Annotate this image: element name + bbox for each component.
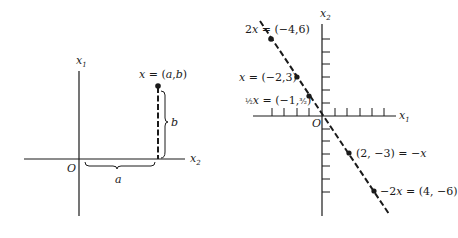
left-point — [155, 83, 161, 89]
point-2x — [268, 36, 274, 42]
label-2x: 2x = (−4,6) — [245, 23, 310, 36]
left-origin-label: O — [67, 162, 76, 175]
left-brace-b-label: b — [171, 116, 178, 129]
brace-a-icon — [85, 162, 155, 169]
left-figure: x1 x2 O x = (a,b) b a — [24, 54, 201, 216]
label-half-x: ½x = (−1,³⁄₂) — [245, 94, 311, 107]
label-x: x = (−2,3) — [239, 71, 297, 84]
left-point-label: x = (a,b) — [139, 68, 187, 81]
right-figure: x2 x1 O 2x = (−4,6) x = (−2,3) ½x = (−1,… — [239, 7, 457, 216]
dashed-line-through-origin — [260, 21, 389, 214]
right-horizontal-ticks — [272, 108, 384, 116]
left-x1-label: x1 — [76, 54, 87, 69]
point-neg-2x — [371, 188, 376, 193]
brace-b-icon — [161, 91, 168, 158]
right-x2-label: x2 — [320, 7, 331, 22]
diagram-canvas: x1 x2 O x = (a,b) b a — [0, 0, 458, 238]
label-neg-2x: −2x = (4, −6) — [380, 185, 457, 198]
right-x1-label: x1 — [399, 109, 410, 124]
left-brace-a-label: a — [115, 173, 122, 186]
right-origin-label: O — [312, 117, 321, 130]
left-x2-label: x2 — [190, 152, 201, 167]
label-neg-x: (2, −3) = −x — [356, 147, 427, 160]
point-neg-x — [346, 150, 351, 155]
